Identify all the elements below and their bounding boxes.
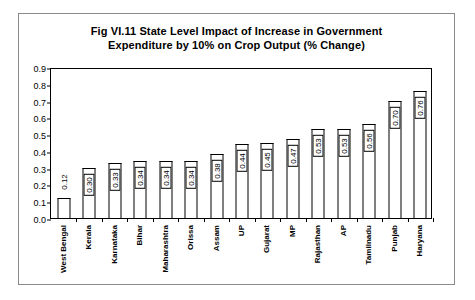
bar-slot: 0.45 xyxy=(255,69,280,218)
x-axis-tick-mark xyxy=(382,218,383,222)
x-axis-category-label: Kerala xyxy=(84,225,93,249)
x-axis-category-label: UP xyxy=(237,225,246,236)
bar[interactable] xyxy=(57,198,70,218)
bar-slot: 0.47 xyxy=(280,69,305,218)
bar-value-label: 0.38 xyxy=(211,160,222,182)
bar-series: 0.120.300.330.340.340.340.380.440.450.47… xyxy=(51,69,431,218)
bar-value-label: 0.45 xyxy=(262,149,273,171)
x-axis-tick-mark xyxy=(102,218,103,222)
x-axis-category-label: West Bengal xyxy=(58,225,67,273)
y-axis-tick-label: 0.3 xyxy=(33,165,46,175)
x-axis-category-label: MP xyxy=(287,225,296,237)
bar-value-label: 0.33 xyxy=(109,169,120,191)
y-axis-tick-label: 0.9 xyxy=(33,64,46,74)
x-axis-tick-mark xyxy=(255,218,256,222)
x-axis-tick-mark xyxy=(280,218,281,222)
bar-value-label: 0.34 xyxy=(135,167,146,189)
bar-slot: 0.44 xyxy=(229,69,254,218)
x-axis-category-label: Gujarat xyxy=(262,225,271,253)
x-axis-tick-mark xyxy=(433,218,434,222)
x-axis-tick-mark xyxy=(76,218,77,222)
bar-value-label: 0.56 xyxy=(364,130,375,152)
x-axis-category-label: AP xyxy=(338,225,347,236)
x-axis-tick-mark xyxy=(357,218,358,222)
x-axis-category-label: Punjab xyxy=(389,225,398,252)
x-axis-tick-mark xyxy=(229,218,230,222)
x-axis-category-label: Karnataka xyxy=(109,225,118,264)
y-axis-tick-mark xyxy=(47,220,51,221)
x-axis-tick-mark xyxy=(408,218,409,222)
y-axis-tick-label: 0.4 xyxy=(33,148,46,158)
bar-value-label: 0.12 xyxy=(59,174,68,190)
bar-slot: 0.34 xyxy=(127,69,152,218)
x-axis-category-label: Assam xyxy=(211,225,220,251)
bar-slot: 0.76 xyxy=(408,69,433,218)
bar-value-label: 0.76 xyxy=(415,97,426,119)
bar-slot: 0.34 xyxy=(178,69,203,218)
x-axis-category-label: Rajasthan xyxy=(313,225,322,263)
plot-area: 0.00.10.20.30.40.50.60.70.80.9 0.120.300… xyxy=(50,68,432,219)
y-axis-tick-label: 0.2 xyxy=(33,181,46,191)
bar-value-label: 0.53 xyxy=(338,135,349,157)
x-axis-category-label: Maharashtra xyxy=(160,225,169,273)
bar-slot: 0.30 xyxy=(76,69,101,218)
y-axis-tick-label: 0.7 xyxy=(33,98,46,108)
bar-slot: 0.53 xyxy=(306,69,331,218)
x-axis-tick-mark xyxy=(127,218,128,222)
x-axis-tick-mark xyxy=(204,218,205,222)
y-axis-tick-label: 0.8 xyxy=(33,81,46,91)
chart-title: Fig VI.11 State Level Impact of Increase… xyxy=(19,24,454,52)
y-axis-tick-label: 0.6 xyxy=(33,114,46,124)
x-axis-tick-mark xyxy=(306,218,307,222)
x-axis-tick-mark xyxy=(153,218,154,222)
x-axis-tick-mark xyxy=(331,218,332,222)
bar-value-label: 0.30 xyxy=(84,174,95,196)
bar-slot: 0.34 xyxy=(153,69,178,218)
bar-value-label: 0.44 xyxy=(236,150,247,172)
chart-title-line-2: Expenditure by 10% on Crop Output (% Cha… xyxy=(19,38,454,52)
y-axis-tick-label: 0.5 xyxy=(33,131,46,141)
bar-value-label: 0.47 xyxy=(287,145,298,167)
x-axis-category-label: Tamilnadu xyxy=(364,225,373,264)
bar-slot: 0.33 xyxy=(102,69,127,218)
bar-slot: 0.53 xyxy=(331,69,356,218)
y-axis-tick-label: 0.1 xyxy=(33,198,46,208)
x-axis-category-label: Haryana xyxy=(415,225,424,257)
bar-slot: 0.12 xyxy=(51,69,76,218)
bar-slot: 0.38 xyxy=(204,69,229,218)
y-axis-tick-label: 0.0 xyxy=(33,215,46,225)
bar-value-label: 0.53 xyxy=(313,135,324,157)
bar-value-label: 0.34 xyxy=(186,167,197,189)
x-axis-tick-mark xyxy=(178,218,179,222)
x-axis-category-label: Orissa xyxy=(186,225,195,250)
bar-slot: 0.70 xyxy=(382,69,407,218)
x-axis-category-label: Bihar xyxy=(135,225,144,245)
bar-value-label: 0.70 xyxy=(389,107,400,129)
bar-slot: 0.56 xyxy=(357,69,382,218)
figure-container: Fig VI.11 State Level Impact of Increase… xyxy=(18,13,455,285)
chart-title-line-1: Fig VI.11 State Level Impact of Increase… xyxy=(19,24,454,38)
bar-value-label: 0.34 xyxy=(160,167,171,189)
